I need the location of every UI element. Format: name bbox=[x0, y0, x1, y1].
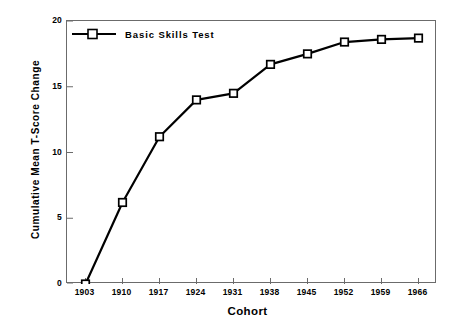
x-tick-label: 1910 bbox=[102, 287, 142, 297]
data-point-marker bbox=[230, 90, 238, 98]
data-point-marker bbox=[304, 50, 312, 58]
chart-legend: Basic Skills Test bbox=[72, 28, 215, 40]
plot-area bbox=[66, 20, 436, 283]
x-tick-label: 1903 bbox=[65, 287, 105, 297]
x-axis-title: Cohort bbox=[55, 305, 440, 317]
x-axis-tick-labels: 1903191019171924193119381945195219591966 bbox=[0, 287, 451, 301]
data-point-marker bbox=[193, 96, 201, 104]
series-line-0 bbox=[86, 38, 419, 284]
x-tick-label: 1931 bbox=[213, 287, 253, 297]
y-tick-label: 20 bbox=[36, 15, 62, 25]
y-axis-tick-labels: 05101520 bbox=[30, 0, 62, 332]
data-point-marker bbox=[341, 38, 349, 46]
data-point-marker bbox=[415, 34, 423, 42]
x-tick-label: 1966 bbox=[398, 287, 438, 297]
data-point-marker bbox=[82, 280, 90, 284]
legend-marker-icon bbox=[72, 28, 116, 40]
x-tick-label: 1945 bbox=[287, 287, 327, 297]
y-tick-label: 15 bbox=[36, 81, 62, 91]
data-point-marker bbox=[156, 133, 164, 141]
data-point-marker bbox=[267, 61, 275, 69]
data-point-marker bbox=[378, 36, 386, 44]
x-tick-label: 1938 bbox=[250, 287, 290, 297]
data-series-canvas bbox=[67, 21, 437, 284]
chart-figure: Cumulative Mean T-Score Change 05101520 … bbox=[0, 0, 451, 332]
y-tick-label: 5 bbox=[36, 212, 62, 222]
y-tick-label: 10 bbox=[36, 147, 62, 157]
x-tick-label: 1917 bbox=[139, 287, 179, 297]
legend-label-basic-skills-test: Basic Skills Test bbox=[125, 29, 215, 40]
data-point-marker bbox=[119, 199, 127, 207]
x-tick-label: 1959 bbox=[361, 287, 401, 297]
x-tick-label: 1952 bbox=[324, 287, 364, 297]
x-tick-label: 1924 bbox=[176, 287, 216, 297]
